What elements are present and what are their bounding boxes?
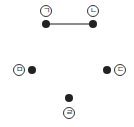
- node-label-digeut: ㄷ: [114, 64, 126, 76]
- node-dot-rieul: [65, 94, 73, 102]
- node-dot-giyeok: [42, 20, 50, 28]
- node-label-mieum: ㅁ: [13, 64, 25, 76]
- node-label-nieun: ㄴ: [87, 5, 99, 17]
- node-dot-mieum: [28, 66, 36, 74]
- node-dot-nieun: [89, 20, 97, 28]
- node-label-giyeok: ㄱ: [40, 5, 52, 17]
- node-label-rieul: ㄹ: [63, 107, 75, 119]
- node-dot-digeut: [103, 66, 111, 74]
